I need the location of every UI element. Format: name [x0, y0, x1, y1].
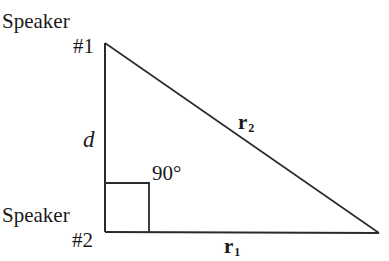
r2-subscript: 2: [248, 121, 254, 135]
speaker-2-label: Speaker: [2, 205, 70, 226]
speaker-1-number: #1: [73, 36, 94, 57]
side-r1-line: [105, 232, 379, 233]
r1-subscript: 1: [234, 245, 240, 259]
speaker-1-label: Speaker: [2, 11, 70, 32]
side-d-label: d: [83, 128, 95, 151]
bottom-r1-label: r1: [224, 236, 240, 258]
right-angle-marker: [105, 183, 149, 232]
right-angle-label: 90°: [152, 163, 181, 184]
r1-base: r: [224, 234, 233, 258]
speaker-2-number: #2: [72, 230, 93, 251]
r2-base: r: [238, 110, 247, 134]
hypotenuse-r2-label: r2: [238, 112, 254, 134]
hypotenuse-r2-line: [105, 43, 379, 233]
